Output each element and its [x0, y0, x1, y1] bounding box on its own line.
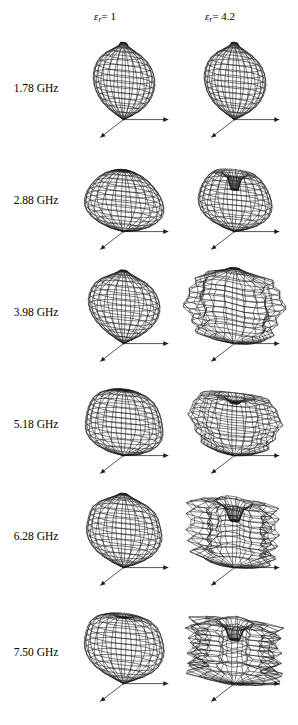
- radiation-pattern-eps1-3-98ghz: [72, 254, 182, 366]
- radiation-pattern-eps1-1-78ghz: [72, 30, 182, 142]
- frequency-label-row-4: 5.18 GHz: [0, 418, 72, 430]
- frequency-label-row-6: 7.50 GHz: [0, 646, 72, 658]
- column-header-eps-1: εr= 1: [70, 10, 140, 24]
- epsilon-value: = 1: [102, 10, 116, 22]
- radiation-pattern-eps42-3-98ghz: [183, 254, 293, 366]
- frequency-label-row-5: 6.28 GHz: [0, 530, 72, 542]
- epsilon-value: = 4.2: [212, 10, 235, 22]
- radiation-pattern-eps42-6-28ghz: [183, 478, 293, 590]
- radiation-pattern-eps42-1-78ghz: [183, 30, 293, 142]
- radiation-pattern-eps1-7-5ghz: [72, 594, 182, 706]
- radiation-pattern-eps42-2-88ghz: [183, 142, 293, 254]
- radiation-pattern-eps42-7-5ghz: [183, 594, 293, 706]
- frequency-label-row-1: 1.78 GHz: [0, 82, 72, 94]
- radiation-pattern-eps1-2-88ghz: [72, 142, 182, 254]
- frequency-label-row-3: 3.98 GHz: [0, 306, 72, 318]
- radiation-pattern-figure: εr= 1 εr= 4.2 1.78 GHz 2.88 GHz 3.98 GHz…: [0, 0, 298, 725]
- radiation-pattern-eps1-6-28ghz: [72, 478, 182, 590]
- radiation-pattern-eps42-5-18ghz: [183, 366, 293, 478]
- column-header-eps-4-2: εr= 4.2: [182, 10, 258, 24]
- radiation-pattern-eps1-5-18ghz: [72, 366, 182, 478]
- frequency-label-row-2: 2.88 GHz: [0, 194, 72, 206]
